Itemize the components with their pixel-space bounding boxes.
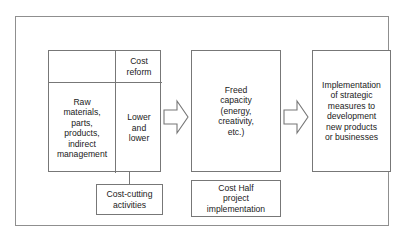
outer-frame: Cost reform Raw materials, parts, produc… — [15, 16, 389, 226]
table-cell-empty — [49, 51, 116, 83]
arrow-right-icon-path — [164, 101, 188, 133]
arrow-right-icon-shape — [163, 99, 189, 135]
box-freed-capacity: Freed capacity (energy, creativity, etc.… — [191, 50, 281, 172]
table-cell-cost-reform-label: Cost reform — [116, 56, 162, 77]
box-cost-cutting-activities-label: Cost-cutting activities — [99, 189, 160, 210]
table-cell-cost-reform: Cost reform — [116, 51, 162, 83]
table-cell-lower-and-lower: Lower and lower — [116, 83, 162, 173]
table-cell-lower-and-lower-label: Lower and lower — [116, 112, 162, 144]
diagram-canvas: Cost reform Raw materials, parts, produc… — [0, 0, 406, 242]
arrow-right-icon-shape — [283, 99, 309, 135]
table-cell-raw-materials-label: Raw materials, parts, products, indirect… — [49, 97, 115, 160]
box-implementation-strategic-measures: Implementation of strategic measures to … — [312, 50, 391, 172]
box-cost-half-project-label: Cost Half project implementation — [194, 183, 278, 215]
box-cost-cutting-activities: Cost-cutting activities — [96, 184, 163, 215]
arrow-right-icon — [163, 99, 189, 135]
arrow-right-icon-path — [284, 101, 308, 133]
arrow-right-icon — [283, 99, 309, 135]
input-table: Cost reform Raw materials, parts, produc… — [48, 50, 161, 172]
box-implementation-strategic-measures-label: Implementation of strategic measures to … — [315, 80, 388, 143]
box-freed-capacity-label: Freed capacity (energy, creativity, etc.… — [194, 85, 278, 138]
box-cost-half-project: Cost Half project implementation — [191, 180, 281, 217]
table-cell-raw-materials: Raw materials, parts, products, indirect… — [49, 83, 116, 173]
